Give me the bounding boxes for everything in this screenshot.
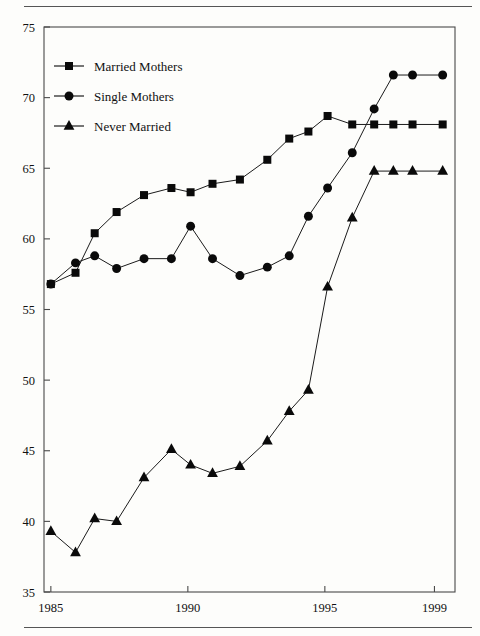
data-point bbox=[45, 525, 56, 535]
data-point bbox=[91, 229, 99, 237]
y-tick-label: 60 bbox=[23, 232, 36, 246]
data-point bbox=[348, 148, 357, 157]
y-tick-label: 35 bbox=[23, 586, 36, 600]
data-point bbox=[285, 135, 293, 143]
data-point bbox=[185, 459, 196, 469]
series-never-married bbox=[45, 165, 448, 556]
y-tick-label: 50 bbox=[23, 374, 36, 388]
data-point bbox=[90, 251, 99, 260]
data-point bbox=[208, 254, 217, 263]
data-point bbox=[389, 120, 397, 128]
y-tick-label: 40 bbox=[23, 515, 36, 529]
y-tick-label: 65 bbox=[23, 162, 36, 176]
data-point bbox=[347, 212, 358, 222]
figure-page: 3540455055606570751985199019951999Marrie… bbox=[0, 0, 480, 636]
series-married-mothers bbox=[47, 112, 447, 288]
series-line bbox=[51, 75, 443, 284]
legend-label: Never Married bbox=[94, 119, 171, 134]
x-tick-label: 1990 bbox=[175, 601, 200, 615]
data-point bbox=[324, 112, 332, 120]
data-point bbox=[140, 191, 148, 199]
data-point bbox=[167, 184, 175, 192]
data-point bbox=[209, 180, 217, 188]
data-point bbox=[263, 156, 271, 164]
x-tick-label: 1999 bbox=[422, 601, 447, 615]
data-point bbox=[263, 263, 272, 272]
chart-svg: 3540455055606570751985199019951999Marrie… bbox=[0, 0, 480, 636]
data-point bbox=[89, 513, 100, 523]
data-point bbox=[72, 269, 80, 277]
data-point bbox=[186, 222, 195, 231]
y-tick-label: 45 bbox=[23, 444, 36, 458]
plot-frame bbox=[44, 27, 455, 592]
data-point bbox=[389, 71, 398, 80]
data-point bbox=[388, 165, 399, 175]
data-point bbox=[369, 165, 380, 175]
legend-marker-square bbox=[65, 62, 73, 70]
legend-marker-triangle bbox=[64, 120, 75, 130]
data-point bbox=[167, 254, 176, 263]
legend-label: Married Mothers bbox=[94, 59, 182, 74]
data-point bbox=[111, 515, 122, 525]
data-point bbox=[409, 120, 417, 128]
y-tick-label: 70 bbox=[23, 91, 36, 105]
data-point bbox=[46, 280, 55, 289]
chart-legend: Married MothersSingle MothersNever Marri… bbox=[54, 59, 182, 134]
data-point bbox=[304, 212, 313, 221]
line-chart: 3540455055606570751985199019951999Marrie… bbox=[0, 0, 480, 636]
data-point bbox=[408, 71, 417, 80]
data-point bbox=[71, 258, 80, 267]
data-point bbox=[235, 460, 246, 470]
data-point bbox=[285, 251, 294, 260]
data-point bbox=[438, 71, 447, 80]
data-point bbox=[235, 271, 244, 280]
legend-label: Single Mothers bbox=[94, 89, 174, 104]
data-point bbox=[370, 104, 379, 113]
series-line bbox=[51, 171, 443, 552]
data-point bbox=[437, 165, 448, 175]
x-tick-label: 1995 bbox=[312, 601, 337, 615]
data-point bbox=[166, 443, 177, 453]
legend-marker-circle bbox=[65, 92, 74, 101]
data-point bbox=[439, 120, 447, 128]
y-tick-label: 55 bbox=[23, 303, 36, 317]
data-point bbox=[323, 184, 332, 193]
y-tick-label: 75 bbox=[23, 21, 36, 35]
data-point bbox=[304, 128, 312, 136]
data-point bbox=[112, 264, 121, 273]
data-point bbox=[236, 176, 244, 184]
data-point bbox=[140, 254, 149, 263]
data-point bbox=[187, 188, 195, 196]
series-line bbox=[51, 116, 443, 284]
bottom-horizontal-rule bbox=[24, 627, 472, 628]
x-tick-label: 1985 bbox=[38, 601, 63, 615]
data-point bbox=[113, 208, 121, 216]
data-point bbox=[70, 546, 81, 556]
data-point bbox=[322, 281, 333, 291]
data-point bbox=[303, 384, 314, 394]
data-point bbox=[407, 165, 418, 175]
data-point bbox=[370, 120, 378, 128]
data-point bbox=[348, 120, 356, 128]
